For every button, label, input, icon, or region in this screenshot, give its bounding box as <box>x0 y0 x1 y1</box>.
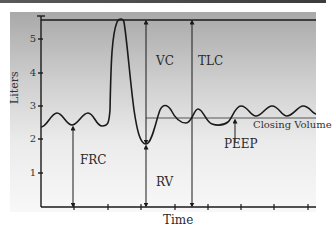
peep-label: PEEP <box>224 138 258 150</box>
y-tick-1: 1 <box>26 167 36 178</box>
y-tick-2: 2 <box>26 133 36 144</box>
tlc-label: TLC <box>198 55 223 67</box>
y-tick-5: 5 <box>26 33 36 44</box>
rv-label: RV <box>156 176 173 188</box>
x-axis-label: Time <box>163 214 193 226</box>
y-axis <box>37 16 45 207</box>
vc-label: VC <box>156 55 174 67</box>
y-tick-4: 4 <box>26 67 36 78</box>
frc-label: FRC <box>80 154 107 166</box>
y-axis-label: Liters <box>8 71 21 104</box>
closing-volume-label: Closing Volume <box>253 120 332 130</box>
y-tick-3: 3 <box>26 100 36 111</box>
